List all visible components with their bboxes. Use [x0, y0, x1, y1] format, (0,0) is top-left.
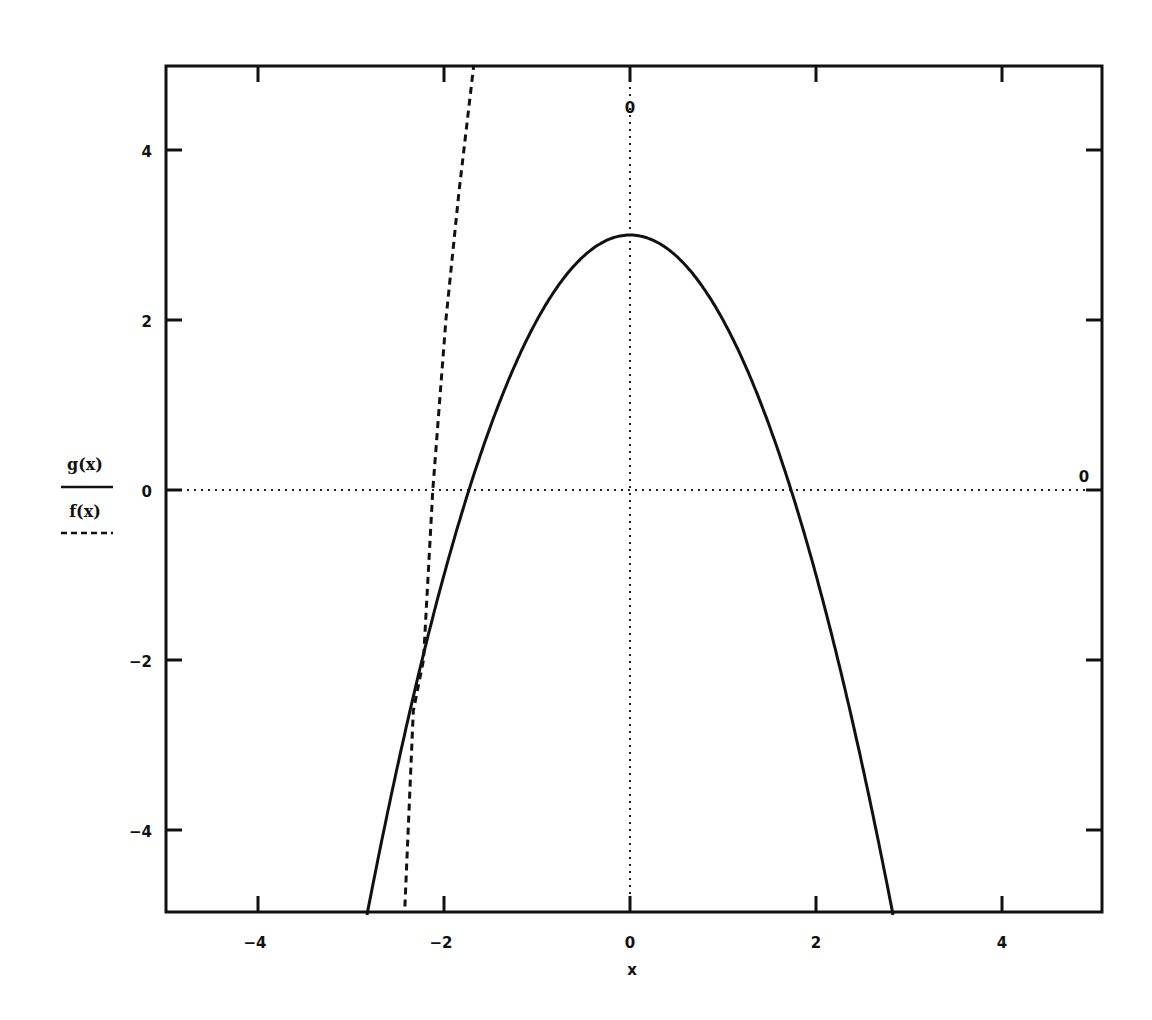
legend-label-f: f(x): [69, 502, 101, 521]
series-gx-line: [367, 235, 893, 915]
y-axis-zero-marker: 0: [625, 99, 635, 117]
plot-canvas: −4−2024 −4−2024 0 0 x g(x) f(x): [0, 0, 1152, 1020]
x-axis-label: x: [627, 961, 637, 979]
x-axis-zero-marker: 0: [1079, 468, 1089, 486]
x-tick-label: 0: [625, 934, 635, 952]
y-tick-label: −2: [129, 653, 152, 671]
x-tick-label: −4: [243, 934, 266, 952]
y-tick-label: 2: [142, 313, 152, 331]
legend: g(x) f(x): [61, 455, 113, 533]
series-fx-line: [405, 65, 474, 907]
x-tick-label: 4: [997, 934, 1007, 952]
y-tick-label: 4: [142, 143, 152, 161]
x-tick-label: 2: [811, 934, 821, 952]
y-tick-label: 0: [142, 483, 152, 501]
legend-label-g: g(x): [67, 455, 103, 474]
x-axis-ticks: −4−2024: [243, 66, 1007, 952]
y-tick-label: −4: [129, 823, 152, 841]
y-axis-ticks: −4−2024: [129, 143, 1102, 841]
x-tick-label: −2: [429, 934, 452, 952]
